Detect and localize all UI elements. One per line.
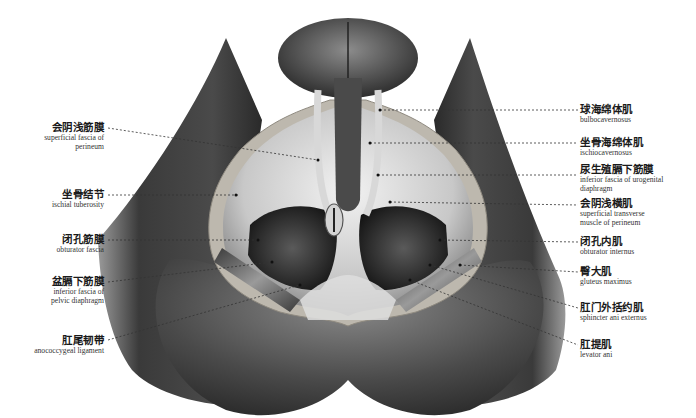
label-superficial-fascia-of-perineum: 会阴浅筋膜 superficial fascia of perineum xyxy=(44,122,104,152)
bulbocavernosus-body xyxy=(334,78,362,211)
label-superficial-transverse-muscle-of-perineum: 会阴浅横肌 superficial transverse muscle of p… xyxy=(580,198,645,228)
label-inferior-fascia-of-pelvic-diaphragm: 盆膈下筋膜 inferior fascia of pelvic diaphrag… xyxy=(51,276,104,306)
label-ischial-tuberosity: 坐骨结节 ischial tuberosity xyxy=(52,189,104,209)
label-levator-ani: 肛提肌 levator ani xyxy=(580,339,612,359)
label-ischiocavernosus: 坐骨海绵体肌 ischiocavernosus xyxy=(580,137,643,157)
label-sphincter-ani-externus: 肛门外括约肌 sphincter ani externus xyxy=(580,302,647,322)
label-obturator-fascia: 闭孔筋膜 obturator fascia xyxy=(57,234,104,254)
anatomy-figure: 会阴浅筋膜 superficial fascia of perineum 坐骨结… xyxy=(0,0,696,418)
label-anococcygeal-ligament: 肛尾韧带 anococcygeal ligament xyxy=(34,335,104,355)
label-gluteus-maximus: 臀大肌 gluteus maximus xyxy=(580,266,632,286)
label-obturator-internus: 闭孔内肌 obturator internus xyxy=(580,236,634,256)
label-bulbocavernosus: 球海绵体肌 bulbocavernosus xyxy=(580,104,633,124)
label-inferior-fascia-of-urogenital-diaphragm: 尿生殖膈下筋膜 inferior fascia of urogenital di… xyxy=(580,164,663,194)
